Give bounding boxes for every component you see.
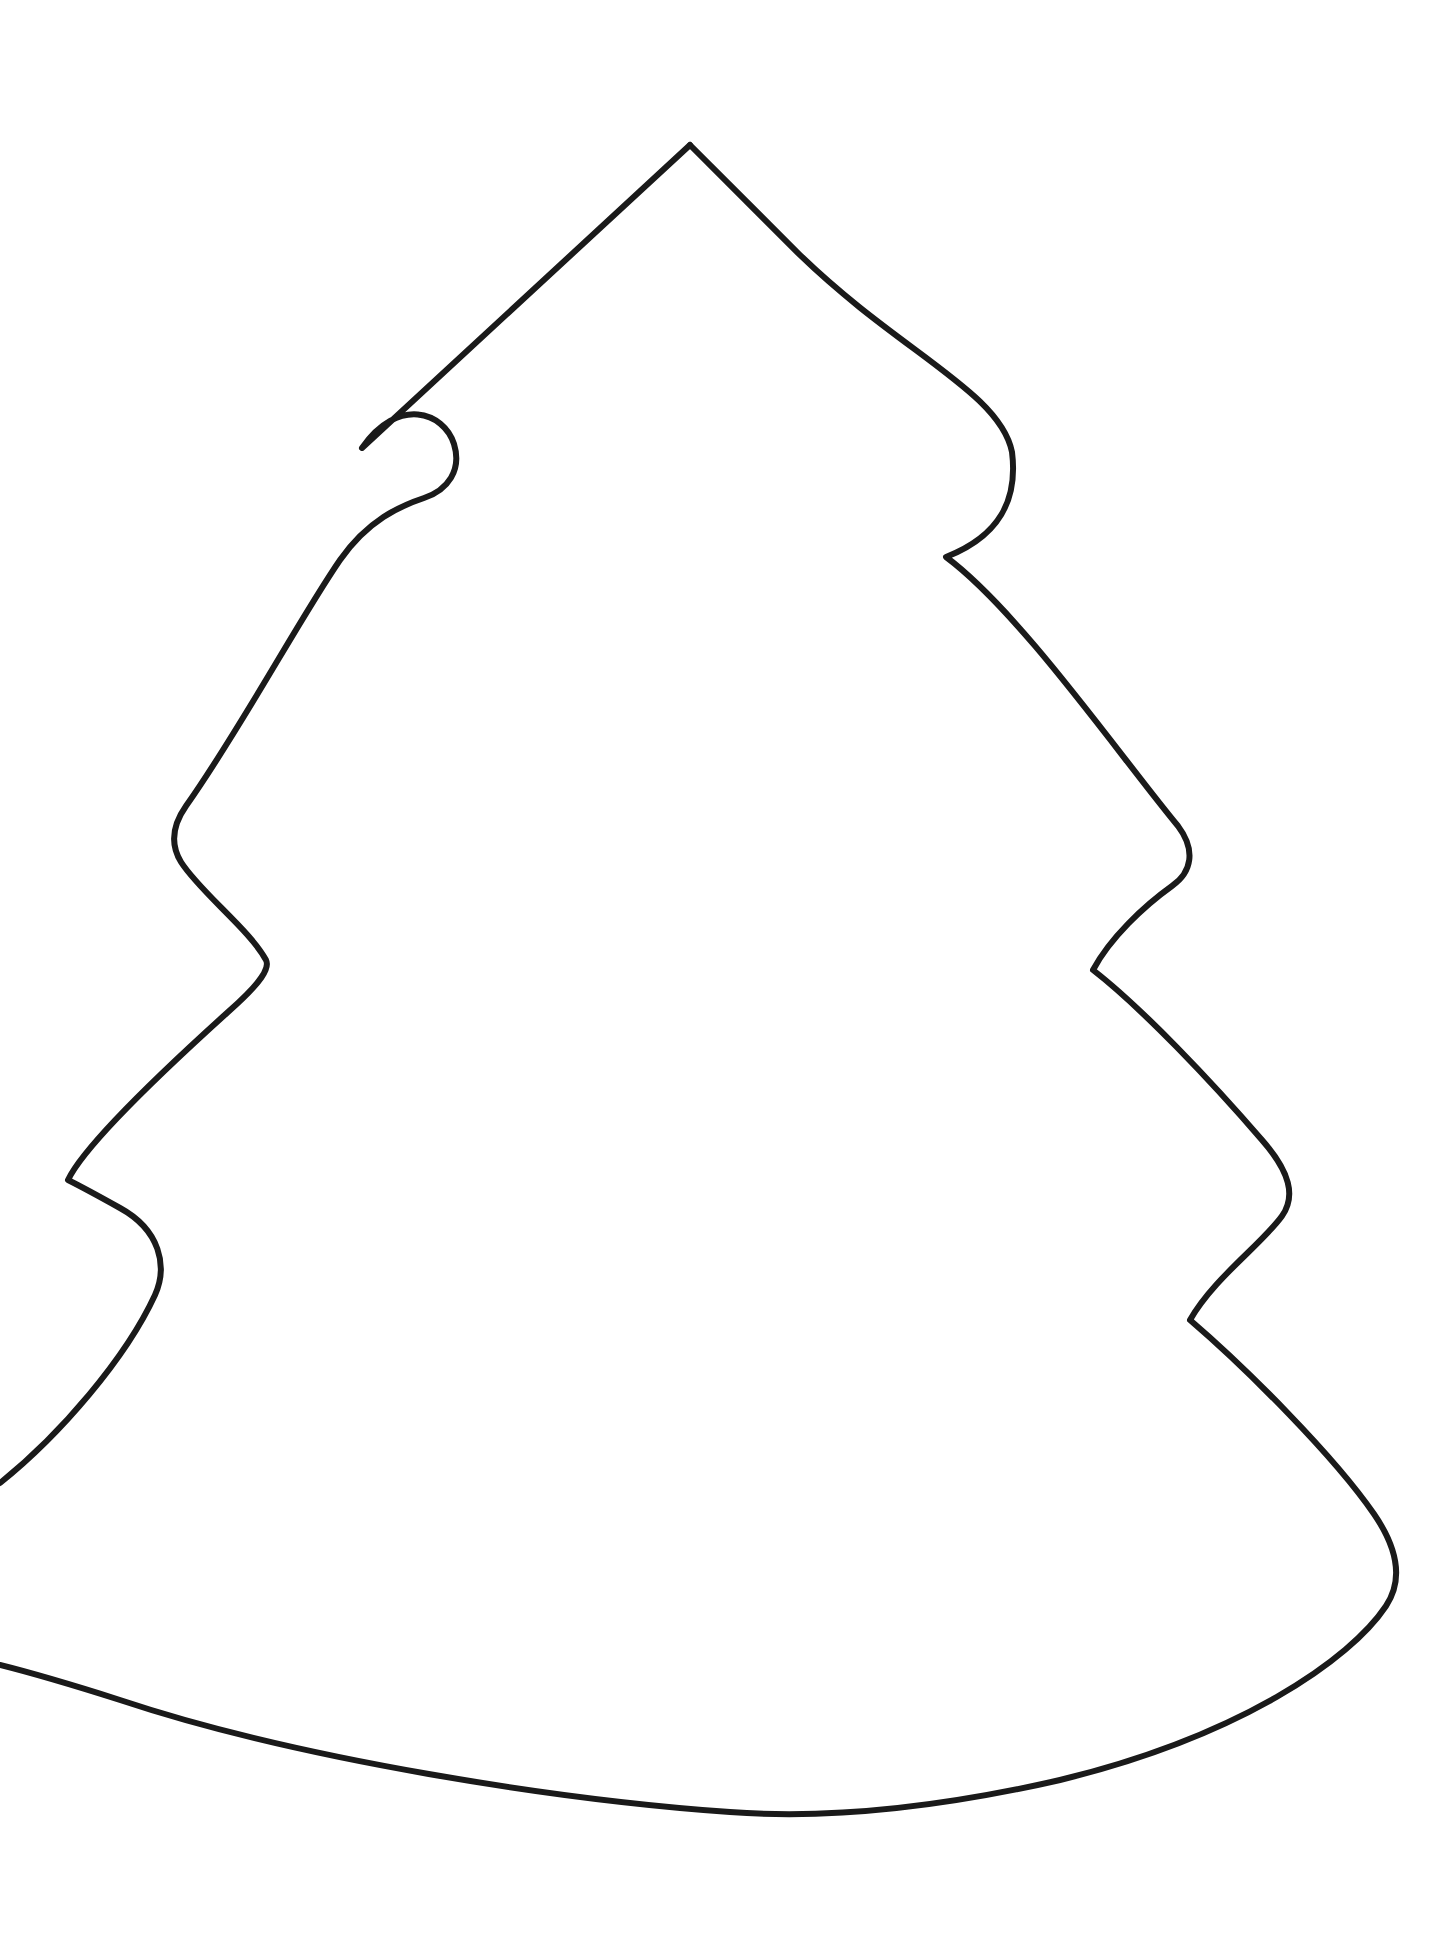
page-canvas bbox=[0, 0, 1448, 1935]
paper-background bbox=[0, 0, 1448, 1935]
tree-outline-drawing bbox=[0, 0, 1448, 1935]
